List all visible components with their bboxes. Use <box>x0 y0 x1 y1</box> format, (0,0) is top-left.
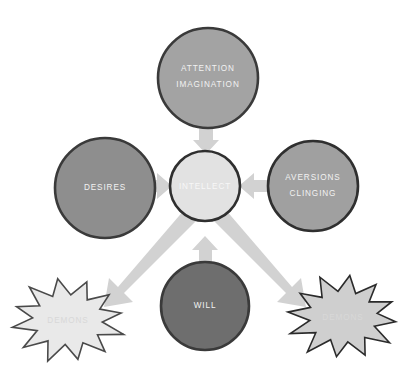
node-desires[interactable]: DESIRES <box>55 138 155 238</box>
node-attention-imagination[interactable]: ATTENTION IMAGINATION <box>158 28 258 128</box>
node-attention-imagination-label-line1: ATTENTION <box>181 64 235 73</box>
node-demons-left-label: DEMONS <box>47 316 88 325</box>
node-intellect[interactable]: INTELLECT <box>170 151 240 221</box>
node-attention-imagination-shape <box>158 28 258 128</box>
arrow-will-to-intellect <box>192 236 218 262</box>
node-attention-imagination-label-line2: IMAGINATION <box>176 80 239 89</box>
node-intellect-label: INTELLECT <box>179 182 231 191</box>
node-desires-label: DESIRES <box>84 183 126 192</box>
node-aversions-clinging-shape <box>268 141 358 231</box>
node-will[interactable]: WILL <box>161 262 249 350</box>
node-demons-right-label: DEMONS <box>322 313 363 322</box>
node-aversions-clinging-label-line2: CLINGING <box>290 189 337 198</box>
node-demons-right[interactable]: DEMONS <box>288 275 396 356</box>
node-aversions-clinging[interactable]: AVERSIONS CLINGING <box>268 141 358 231</box>
node-will-label: WILL <box>194 301 217 310</box>
influence-diagram: ATTENTION IMAGINATION DESIRES AVERSIONS … <box>0 0 411 372</box>
arrow-aversions-to-intellect <box>239 173 268 199</box>
node-aversions-clinging-label-line1: AVERSIONS <box>285 173 340 182</box>
diagram-canvas: ATTENTION IMAGINATION DESIRES AVERSIONS … <box>0 0 411 372</box>
